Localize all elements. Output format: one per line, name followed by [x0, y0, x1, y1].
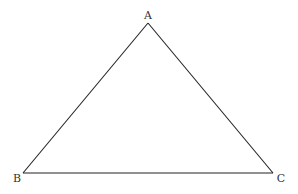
vertex-label-a: A [143, 9, 153, 22]
triangle-figure: A B C [0, 0, 298, 194]
edge-ca [148, 23, 273, 173]
edge-ab [23, 23, 148, 173]
vertex-label-c: C [277, 172, 285, 185]
vertex-label-b: B [13, 172, 21, 185]
diagram-canvas: A B C [0, 0, 298, 194]
